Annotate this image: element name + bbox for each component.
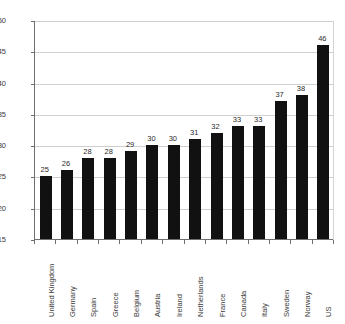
bar xyxy=(275,101,287,239)
x-axis-category-label: Norway xyxy=(304,292,312,317)
bar-value-label: 33 xyxy=(246,116,270,124)
y-axis-tick-label: 45 xyxy=(0,49,6,57)
bar-value-label: 26 xyxy=(54,160,78,168)
y-axis-tick-label: 35 xyxy=(0,111,6,119)
x-axis-category-label: United Kingdom xyxy=(48,264,56,317)
bar xyxy=(296,95,308,239)
x-axis-category-label: US xyxy=(325,307,333,317)
x-axis-tick-mark xyxy=(269,240,270,244)
x-axis-category-label: France xyxy=(219,294,227,317)
x-axis-tick-mark xyxy=(248,240,249,244)
bar xyxy=(189,139,201,239)
y-axis-tick-label: 15 xyxy=(0,236,6,244)
bar-value-label: 46 xyxy=(310,35,334,43)
bar xyxy=(146,145,158,239)
x-axis-tick-mark xyxy=(312,240,313,244)
y-axis-tick-label: 20 xyxy=(0,205,6,213)
x-axis-tick-mark xyxy=(290,240,291,244)
bar xyxy=(125,151,137,239)
x-axis-category-label: Netherlands xyxy=(197,277,205,317)
x-axis-tick-mark xyxy=(205,240,206,244)
bar xyxy=(253,126,265,239)
bar xyxy=(211,133,223,239)
x-axis-category-label: Austria xyxy=(154,294,162,317)
bar xyxy=(104,158,116,239)
gridline xyxy=(35,21,333,22)
x-axis-tick-mark xyxy=(141,240,142,244)
bar xyxy=(168,145,180,239)
plot-frame-right-border xyxy=(333,21,334,241)
y-axis-tick-label: 40 xyxy=(0,80,6,88)
bar xyxy=(232,126,244,239)
x-axis-tick-mark xyxy=(98,240,99,244)
x-axis-tick-mark xyxy=(55,240,56,244)
y-axis-tick-label: 30 xyxy=(0,142,6,150)
y-axis-tick-label: 25 xyxy=(0,174,6,182)
bar xyxy=(317,45,329,239)
gridline xyxy=(35,177,333,178)
x-axis-tick-mark xyxy=(162,240,163,244)
x-axis-category-label: Belgium xyxy=(133,290,141,317)
x-axis-tick-mark xyxy=(119,240,120,244)
x-axis-tick-mark xyxy=(77,240,78,244)
gridline xyxy=(35,115,333,116)
x-axis-tick-mark xyxy=(333,240,334,244)
gridline xyxy=(35,52,333,53)
x-axis-category-label: Greece xyxy=(112,292,120,317)
x-axis-category-label: Ireland xyxy=(176,294,184,317)
bar-value-label: 38 xyxy=(289,85,313,93)
bar-chart: 1520253035404550 25262828293030313233333… xyxy=(0,0,345,324)
x-axis-category-label: Italy xyxy=(261,303,269,317)
x-axis-category-label: Spain xyxy=(90,298,98,317)
y-axis-tick-label: 50 xyxy=(0,17,6,25)
bar xyxy=(82,158,94,239)
x-axis-category-label: Sweden xyxy=(283,290,291,317)
bar xyxy=(61,170,73,239)
x-axis-tick-mark xyxy=(34,240,35,244)
x-axis-tick-mark xyxy=(226,240,227,244)
gridline xyxy=(35,209,333,210)
x-axis-tick-mark xyxy=(184,240,185,244)
bar xyxy=(40,176,52,239)
x-axis-category-label: Canada xyxy=(240,291,248,317)
x-axis-category-label: Germany xyxy=(69,286,77,317)
